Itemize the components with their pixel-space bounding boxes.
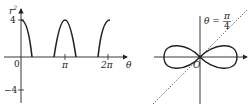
line-label-num: π [223,11,231,21]
line-label-den: 4 [224,21,230,31]
y-tick-label-4: 4 [10,15,16,25]
origin-label-O: O [193,60,201,70]
left-graph: r2 4 −4 0 π 2π θ [4,4,132,103]
origin-point [198,55,201,58]
x-tick-label-2pi: 2π [100,60,114,70]
origin-label: 0 [14,59,20,69]
x-axis-label: θ [126,60,132,70]
curve-arc-1 [21,20,32,57]
y-tick-label-neg4: −4 [4,85,18,95]
figure: r2 4 −4 0 π 2π θ O θ = π 4 [0,0,249,111]
curve-arc-2 [54,20,76,57]
curve-arc-3 [98,20,110,57]
right-graph: O θ = π 4 [153,10,247,104]
x-tick-label-pi: π [61,60,69,70]
line-label-theta: θ = [204,16,220,26]
